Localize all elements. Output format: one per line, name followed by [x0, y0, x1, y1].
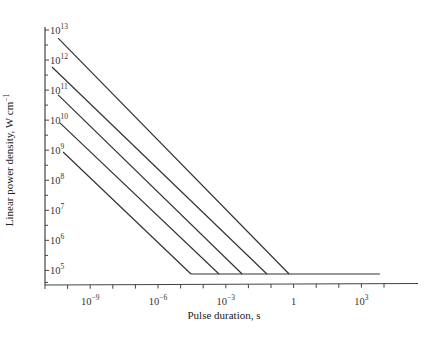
y-axis-label-text: Linear power density, W cm [3, 101, 15, 226]
x-tick-label: 1 [291, 296, 296, 307]
y-tick-label: 107 [50, 202, 65, 216]
series-line-2 [52, 67, 267, 274]
series-line-5 [63, 152, 191, 274]
y-tick-label: 1012 [50, 52, 68, 66]
y-tick-label: 109 [50, 142, 65, 156]
y-tick-label: 1010 [50, 112, 68, 126]
y-axis-label-exponent: −1 [2, 94, 11, 102]
series-line-1 [58, 38, 289, 274]
y-axis-label: Linear power density, W cm−1 [2, 94, 15, 227]
x-tick-label: 10−6 [149, 293, 168, 307]
x-tick-labels: 10−910−610−31103 [81, 293, 369, 307]
chart: 10−910−610−31103 10131012101110101091081… [0, 0, 437, 337]
y-tick-labels: 1013101210111010109108107106105 [50, 22, 68, 276]
x-axis-label: Pulse duration, s [187, 309, 260, 321]
y-tick-label: 106 [50, 232, 65, 246]
data-series [52, 38, 380, 274]
x-tick-label: 103 [354, 293, 369, 307]
series-line-3 [58, 95, 242, 274]
x-tick-label: 10−9 [81, 293, 100, 307]
x-axis [45, 284, 418, 286]
y-tick-label: 105 [50, 262, 65, 276]
y-tick-label: 1011 [50, 82, 68, 96]
y-tick-label: 1013 [50, 22, 68, 36]
x-tick-label: 10−3 [217, 293, 236, 307]
y-tick-label: 108 [50, 172, 65, 186]
series-line-4 [60, 123, 219, 274]
